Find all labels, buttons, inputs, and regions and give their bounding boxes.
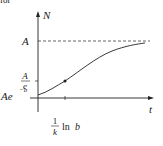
inflection-time-denominator: k bbox=[53, 127, 58, 137]
x-axis-label: t bbox=[149, 103, 153, 115]
gompertz-curve bbox=[38, 43, 145, 95]
b-text: b bbox=[75, 121, 80, 132]
y-axis-label: N bbox=[42, 9, 51, 21]
x-axis-arrow-icon bbox=[148, 96, 154, 100]
inflection-point-marker bbox=[64, 80, 67, 83]
ln-text: ln bbox=[62, 121, 70, 132]
inflection-value-numerator: A bbox=[21, 71, 28, 81]
asymptote-label: A bbox=[21, 35, 29, 47]
intercept-label: Ae bbox=[0, 90, 13, 102]
intercept-exponent: −b bbox=[19, 86, 28, 94]
inflection-time-numerator: 1 bbox=[53, 116, 58, 126]
cropped-text-fragment: for bbox=[0, 0, 11, 5]
gompertz-diagram: for N t A A e Ae −b 1 k ln b bbox=[0, 0, 163, 146]
y-axis-arrow-icon bbox=[36, 11, 40, 17]
